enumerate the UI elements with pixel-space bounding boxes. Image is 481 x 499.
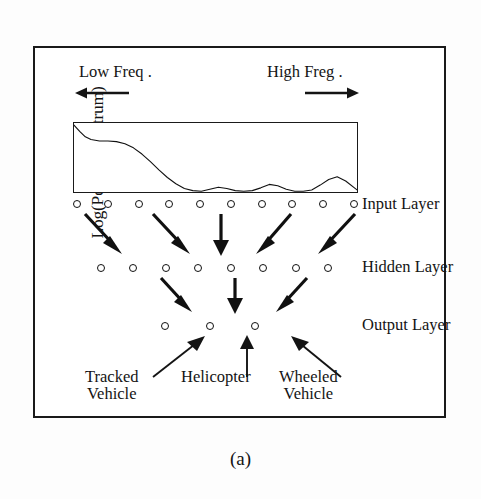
- network-node: [104, 200, 112, 208]
- power-spectrum-plot: [73, 122, 358, 193]
- figure-outer-frame: Log(Power Spectrum) Low Freq . High Freg…: [33, 46, 446, 418]
- network-node: [324, 264, 332, 272]
- category-label-helicopter: Helicopter: [181, 368, 251, 385]
- network-node: [319, 200, 327, 208]
- network-node: [73, 200, 81, 208]
- network-node: [258, 200, 266, 208]
- network-node: [165, 200, 173, 208]
- network-node: [350, 200, 358, 208]
- network-node: [162, 264, 170, 272]
- network-node: [196, 200, 204, 208]
- category-wheeled-line2: Vehicle: [279, 385, 338, 402]
- network-node: [292, 264, 300, 272]
- network-node: [227, 200, 235, 208]
- high-frequency-label: High Freg .: [267, 62, 343, 82]
- input-layer-label: Input Layer: [362, 194, 439, 214]
- output-layer-nodes: [161, 320, 259, 334]
- low-frequency-arrow-icon: [75, 86, 131, 100]
- network-node: [194, 264, 202, 272]
- category-label-tracked-vehicle: Tracked Vehicle: [85, 368, 138, 402]
- network-node: [206, 322, 214, 330]
- category-tracked-line2: Vehicle: [85, 385, 138, 402]
- category-label-wheeled-vehicle: Wheeled Vehicle: [279, 368, 338, 402]
- network-node: [251, 322, 259, 330]
- input-to-hidden-arrows: [73, 210, 363, 262]
- network-node: [97, 264, 105, 272]
- low-frequency-label: Low Freq .: [79, 62, 152, 82]
- network-node: [129, 264, 137, 272]
- network-node: [161, 322, 169, 330]
- high-frequency-arrow-icon: [303, 86, 359, 100]
- spectrum-curve-path: [74, 123, 357, 192]
- category-helicopter-line1: Helicopter: [181, 367, 251, 386]
- figure-panel-a: Log(Power Spectrum) Low Freq . High Freg…: [0, 0, 481, 499]
- network-node: [135, 200, 143, 208]
- network-node: [288, 200, 296, 208]
- network-node: [227, 264, 235, 272]
- output-layer-label: Output Layer: [362, 315, 450, 335]
- figure-caption: (a): [0, 448, 481, 470]
- network-node: [259, 264, 267, 272]
- hidden-layer-label: Hidden Layer: [362, 257, 453, 277]
- hidden-to-output-arrows: [135, 274, 335, 320]
